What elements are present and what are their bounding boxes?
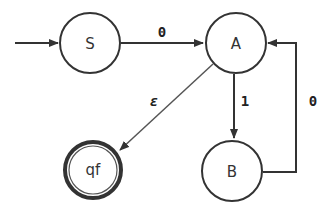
state-label: S	[85, 35, 95, 53]
transition-a-to-qf: ε	[120, 64, 213, 150]
state-a: A	[206, 13, 266, 73]
transition-label: 1	[241, 93, 249, 109]
transition-label: 0	[309, 93, 317, 109]
transition-s-to-a: 0	[121, 24, 203, 43]
transition-b-to-a: 0	[263, 43, 317, 172]
state-s: S	[60, 13, 120, 73]
state-b: B	[202, 141, 262, 201]
state-label: B	[227, 163, 237, 181]
transition-label: ε	[150, 93, 158, 109]
state-label: A	[231, 35, 242, 53]
transition-label: 0	[158, 24, 166, 40]
state-label: qf	[86, 161, 102, 179]
state-qf: qf	[65, 142, 121, 198]
automaton-diagram: 0 ε 1 0 S A qf B	[0, 0, 335, 219]
transition-a-to-b: 1	[234, 74, 249, 138]
